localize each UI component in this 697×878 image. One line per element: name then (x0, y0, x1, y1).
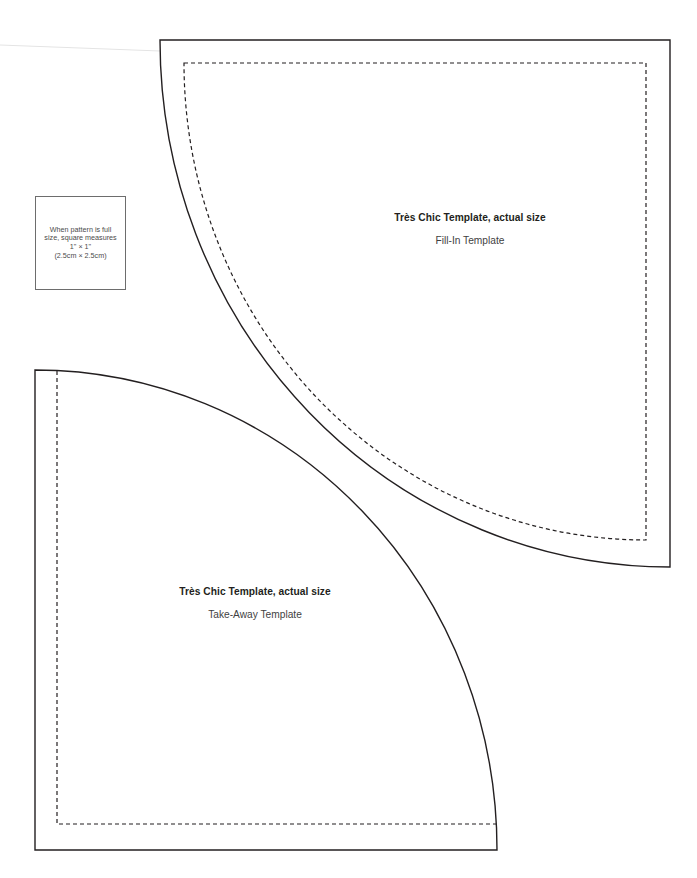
template-title: Très Chic Template, actual size (370, 212, 570, 223)
scale-reference-square: When pattern is full size, square measur… (35, 196, 126, 290)
pattern-artwork (0, 0, 697, 878)
scale-note: When pattern is full size, square measur… (39, 226, 123, 260)
fill-in-template-label: Très Chic Template, actual size Fill-In … (370, 212, 570, 246)
fill-in-template-shape (160, 40, 670, 567)
template-subtitle: Fill-In Template (370, 235, 570, 246)
fill-in-cut-line (160, 40, 670, 567)
template-subtitle: Take-Away Template (155, 609, 355, 620)
scale-note-line: (2.5cm × 2.5cm) (39, 252, 123, 261)
template-title: Très Chic Template, actual size (155, 586, 355, 597)
scan-artifact-line (0, 45, 160, 51)
take-away-template-label: Très Chic Template, actual size Take-Awa… (155, 586, 355, 620)
fill-in-seam-line (184, 63, 646, 540)
